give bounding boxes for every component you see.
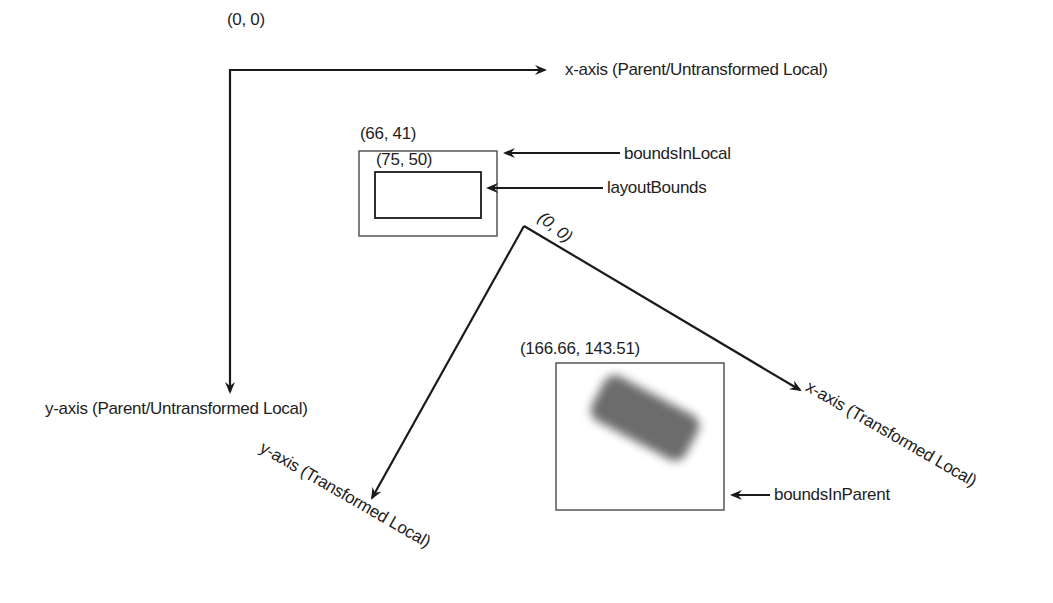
bounds-in-parent-origin-label: (166.66, 143.51) [520,339,640,359]
layout-bounds-label: layoutBounds [607,178,706,198]
layout-bounds-origin-label: (75, 50) [376,150,432,170]
parent-y-axis-label: y-axis (Parent/Untransformed Local) [45,399,308,419]
coordinate-diagram: (0, 0) x-axis (Parent/Untransformed Loca… [0,0,1053,603]
parent-origin-label: (0, 0) [227,10,265,30]
bounds-in-local-origin-label: (66, 41) [360,124,416,144]
bounds-in-local-label: boundsInLocal [624,144,731,164]
parent-x-axis-label: x-axis (Parent/Untransformed Local) [565,60,828,80]
transformed-x-axis-arrow [524,226,800,390]
diagram-graphics [0,0,1053,603]
bounds-in-parent-label: boundsInParent [774,485,890,505]
layout-bounds-rect [375,172,481,218]
transformed-y-axis-arrow [372,226,524,498]
